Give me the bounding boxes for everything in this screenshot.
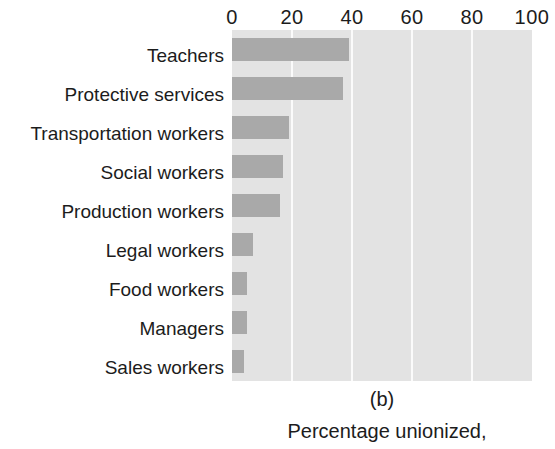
panel-letter-block: (b) — [232, 386, 532, 412]
bar-row — [232, 108, 532, 147]
bar-row — [232, 30, 532, 69]
bar-legal-workers — [232, 233, 253, 256]
bar-row — [232, 186, 532, 225]
x-tick-label-80: 80 — [460, 5, 483, 29]
category-label-transportation-workers: Transportation workers — [0, 122, 224, 146]
category-label-managers: Managers — [0, 317, 224, 341]
category-label-protective-services: Protective services — [0, 83, 224, 107]
bar-row — [232, 147, 532, 186]
bar-social-workers — [232, 155, 283, 178]
plot-area — [232, 30, 532, 381]
x-tick-label-40: 40 — [340, 5, 363, 29]
x-tick-label-0: 0 — [226, 5, 238, 29]
unionization-bar-chart-figure: 0 20 40 60 80 100 Teachers Protective se… — [0, 0, 555, 449]
x-axis-tick-labels: 0 20 40 60 80 100 — [232, 5, 532, 29]
category-label-teachers: Teachers — [0, 44, 224, 68]
panel-letter: (b) — [370, 388, 394, 410]
bar-row — [232, 342, 532, 381]
category-label-legal-workers: Legal workers — [0, 239, 224, 263]
bars-layer — [232, 30, 532, 381]
category-label-sales-workers: Sales workers — [0, 356, 224, 380]
bar-row — [232, 69, 532, 108]
bar-food-workers — [232, 272, 247, 295]
x-tick-label-60: 60 — [400, 5, 423, 29]
figure-caption: Percentage unionized, — [232, 418, 542, 444]
bar-row — [232, 303, 532, 342]
bar-protective-services — [232, 77, 343, 100]
category-label-production-workers: Production workers — [0, 200, 224, 224]
bar-teachers — [232, 38, 349, 61]
bar-row — [232, 264, 532, 303]
bar-managers — [232, 311, 247, 334]
category-label-food-workers: Food workers — [0, 278, 224, 302]
category-label-social-workers: Social workers — [0, 161, 224, 185]
x-tick-label-100: 100 — [515, 5, 550, 29]
bar-sales-workers — [232, 350, 244, 373]
x-tick-label-20: 20 — [280, 5, 303, 29]
bar-transportation-workers — [232, 116, 289, 139]
bar-production-workers — [232, 194, 280, 217]
y-axis-category-labels: Teachers Protective services Transportat… — [0, 30, 224, 381]
bar-row — [232, 225, 532, 264]
